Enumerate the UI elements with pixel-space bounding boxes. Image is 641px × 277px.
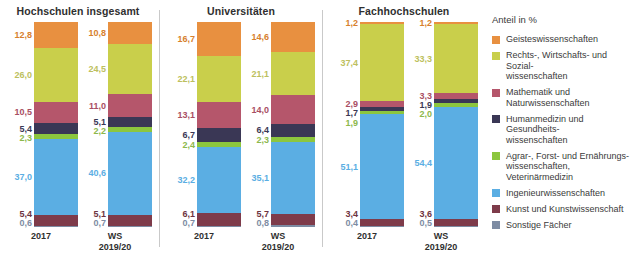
bar-segment-human[interactable] — [108, 117, 152, 127]
segment-value-label: 0,7 — [182, 219, 195, 228]
bar-unit: 10,824,511,05,12,240,65,10,7WS 2019/20 — [78, 22, 152, 253]
legend-item-recht[interactable]: Rechts-, Wirtschafts- und Sozial- wissen… — [492, 50, 637, 82]
bar-unit: 14,621,114,06,42,335,15,70,8WS 2019/20 — [241, 22, 315, 253]
bar-segment-ingenieur[interactable] — [434, 107, 478, 218]
bar-segment-human[interactable] — [34, 123, 78, 134]
bar-segment-kunst[interactable] — [197, 213, 241, 226]
segment-value-label: 22,1 — [177, 74, 195, 83]
stacked-bar[interactable] — [434, 22, 478, 227]
bar-segment-human[interactable] — [271, 124, 315, 137]
segment-value-label: 0,5 — [419, 219, 432, 228]
bar-segment-kunst[interactable] — [271, 214, 315, 226]
bar-segment-mathe[interactable] — [434, 93, 478, 100]
legend-item-human[interactable]: Humanmedizin und Gesundheits- wissenscha… — [492, 114, 637, 146]
legend-swatch-geistes-icon — [492, 36, 500, 44]
legend-swatch-ingenieur-icon — [492, 189, 500, 197]
bar-segment-sonstige[interactable] — [434, 226, 478, 227]
legend-label-human: Humanmedizin und Gesundheits- wissenscha… — [506, 114, 637, 146]
bar-segment-human[interactable] — [197, 128, 241, 142]
bar-segment-geistes[interactable] — [197, 22, 241, 56]
bar-caption: WS 2019/20 — [241, 231, 315, 253]
legend-item-kunst[interactable]: Kunst und Kunstwissenschaft — [492, 204, 637, 215]
bar-segment-mathe[interactable] — [34, 102, 78, 124]
panel-divider — [159, 10, 160, 247]
bar-unit-row: 10,824,511,05,12,240,65,10,7 — [78, 22, 152, 227]
bar-segment-recht[interactable] — [197, 56, 241, 101]
segment-value-label: 32,2 — [177, 176, 195, 185]
bar-segment-geistes[interactable] — [271, 22, 315, 52]
legend-item-agrar[interactable]: Agrar-, Forst- und Ernährungs- wissensch… — [492, 151, 637, 183]
bar-segment-ingenieur[interactable] — [108, 132, 152, 215]
panel-title: Universitäten — [167, 0, 315, 22]
bar-caption: WS 2019/20 — [78, 231, 152, 253]
segment-value-label: 2,4 — [182, 140, 195, 149]
chart-legend: Anteil in % GeisteswissenschaftenRechts-… — [478, 0, 641, 277]
bar-caption: WS 2019/20 — [404, 231, 478, 253]
legend-item-list: GeisteswissenschaftenRechts-, Wirtschaft… — [492, 34, 637, 230]
stacked-bar[interactable] — [108, 22, 152, 227]
bar-unit-row: 14,621,114,06,42,335,15,70,8 — [241, 22, 315, 227]
legend-item-mathe[interactable]: Mathematik und Naturwissenschaften — [492, 87, 637, 108]
bar-segment-mathe[interactable] — [108, 94, 152, 117]
bar-segment-sonstige[interactable] — [108, 226, 152, 227]
bar-caption: 2017 — [167, 231, 241, 242]
segment-value-label: 16,7 — [177, 35, 195, 44]
legend-swatch-mathe-icon — [492, 89, 500, 97]
panel-bars: 12,826,010,55,42,337,05,40,6201710,824,5… — [4, 22, 152, 277]
bar-segment-ingenieur[interactable] — [271, 142, 315, 214]
bar-segment-geistes[interactable] — [34, 22, 78, 48]
value-label-column: 16,722,113,16,72,432,26,10,7 — [167, 22, 197, 227]
legend-item-sonstige[interactable]: Sonstige Fächer — [492, 220, 637, 231]
bar-segment-geistes[interactable] — [108, 22, 152, 44]
bar-segment-mathe[interactable] — [197, 102, 241, 129]
stacked-bar[interactable] — [34, 22, 78, 227]
segment-value-label: 14,6 — [251, 32, 269, 41]
segment-value-label: 12,8 — [14, 31, 32, 40]
bar-segment-kunst[interactable] — [360, 219, 404, 226]
bar-segment-recht[interactable] — [34, 48, 78, 101]
legend-label-agrar: Agrar-, Forst- und Ernährungs- wissensch… — [506, 151, 637, 183]
segment-value-label: 33,3 — [414, 54, 432, 63]
bar-segment-ingenieur[interactable] — [34, 139, 78, 215]
segment-value-label: 1,2 — [345, 19, 358, 28]
segment-value-label: 51,1 — [340, 162, 358, 171]
legend-label-mathe: Mathematik und Naturwissenschaften — [506, 87, 637, 108]
bar-caption: 2017 — [330, 231, 404, 242]
segment-value-label: 0,8 — [256, 219, 269, 228]
bar-segment-mathe[interactable] — [271, 95, 315, 124]
legend-swatch-kunst-icon — [492, 205, 500, 213]
bar-segment-kunst[interactable] — [434, 219, 478, 226]
bar-segment-sonstige[interactable] — [34, 226, 78, 227]
bar-segment-kunst[interactable] — [108, 215, 152, 225]
bar-segment-sonstige[interactable] — [197, 226, 241, 227]
bar-segment-sonstige[interactable] — [271, 225, 315, 227]
bar-segment-ingenieur[interactable] — [360, 114, 404, 219]
legend-item-ingenieur[interactable]: Ingenieurwissenschaften — [492, 188, 637, 199]
segment-value-label: 21,1 — [251, 69, 269, 78]
segment-value-label: 0,6 — [19, 219, 32, 228]
bar-unit-row: 16,722,113,16,72,432,26,10,7 — [167, 22, 241, 227]
legend-swatch-recht-icon — [492, 52, 500, 60]
panel-3: Fachhochschulen1,237,42,91,71,951,13,40,… — [330, 0, 478, 277]
stacked-bar[interactable] — [271, 22, 315, 227]
bar-segment-sonstige[interactable] — [360, 226, 404, 227]
legend-label-recht: Rechts-, Wirtschafts- und Sozial- wissen… — [506, 50, 637, 82]
bar-segment-recht[interactable] — [360, 24, 404, 101]
legend-label-geistes: Geisteswissenschaften — [506, 34, 598, 45]
bar-segment-recht[interactable] — [108, 44, 152, 94]
bar-unit: 16,722,113,16,72,432,26,10,72017 — [167, 22, 241, 242]
legend-swatch-human-icon — [492, 115, 500, 123]
bar-unit-row: 1,237,42,91,71,951,13,40,4 — [330, 22, 404, 227]
segment-value-label: 2,2 — [93, 127, 106, 136]
bar-segment-kunst[interactable] — [34, 215, 78, 226]
panel-2: Universitäten16,722,113,16,72,432,26,10,… — [167, 0, 315, 277]
segment-value-label: 1,9 — [345, 118, 358, 127]
stacked-bar[interactable] — [360, 22, 404, 227]
legend-item-geistes[interactable]: Geisteswissenschaften — [492, 34, 637, 45]
bar-segment-recht[interactable] — [271, 52, 315, 95]
legend-swatch-agrar-icon — [492, 152, 500, 160]
stacked-bar[interactable] — [197, 22, 241, 227]
value-label-column: 1,233,33,31,92,054,43,60,5 — [404, 22, 434, 227]
bar-segment-recht[interactable] — [434, 24, 478, 92]
bar-segment-ingenieur[interactable] — [197, 147, 241, 213]
